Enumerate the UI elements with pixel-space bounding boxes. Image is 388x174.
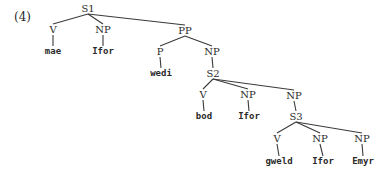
category-node: V: [198, 89, 207, 100]
tree-edge: [160, 36, 185, 46]
example-number: (4): [14, 10, 31, 24]
tree-edge: [212, 57, 213, 68]
terminal-word: bod: [196, 111, 212, 121]
category-node: PP: [178, 25, 192, 36]
tree-edge: [160, 57, 161, 68]
category-node: S2: [206, 68, 219, 79]
terminal-word: mae: [45, 46, 62, 56]
category-node: V: [48, 24, 57, 35]
syntax-tree: (4) S1VNPmaeIforPPPNPwediS2VNPNPbodIforS…: [0, 0, 388, 174]
category-node: NP: [240, 89, 256, 100]
category-node: NP: [354, 133, 370, 144]
category-node: NP: [95, 24, 111, 35]
terminal-word: Ifor: [238, 111, 260, 121]
tree-edge: [203, 100, 204, 111]
tree-nodes: S1VNPmaeIforPPPNPwediS2VNPNPbodIforS3VNP…: [45, 3, 375, 166]
tree-edge: [362, 144, 363, 156]
category-node: V: [272, 133, 281, 144]
tree-edge: [185, 36, 212, 46]
tree-edge: [203, 79, 213, 89]
tree-edge: [277, 122, 296, 133]
tree-edge: [277, 144, 279, 156]
terminal-word: Ifor: [312, 156, 334, 166]
terminal-word: Ifor: [92, 46, 114, 56]
category-node: NP: [286, 90, 302, 101]
category-node: NP: [312, 133, 328, 144]
terminal-word: Emyr: [352, 156, 374, 166]
tree-edge: [296, 122, 362, 133]
category-node: NP: [204, 46, 220, 57]
tree-edge: [213, 79, 248, 89]
terminal-word: gweld: [265, 156, 292, 166]
category-node: P: [157, 46, 164, 57]
category-node: S1: [81, 3, 94, 14]
syntax-tree-figure: (4) S1VNPmaeIforPPPNPwediS2VNPNPbodIforS…: [0, 0, 388, 174]
tree-edge: [53, 14, 88, 24]
tree-edge: [248, 100, 249, 111]
category-node: S3: [289, 111, 302, 122]
tree-edge: [294, 101, 296, 111]
terminal-word: wedi: [150, 68, 172, 78]
tree-edge: [320, 144, 323, 156]
